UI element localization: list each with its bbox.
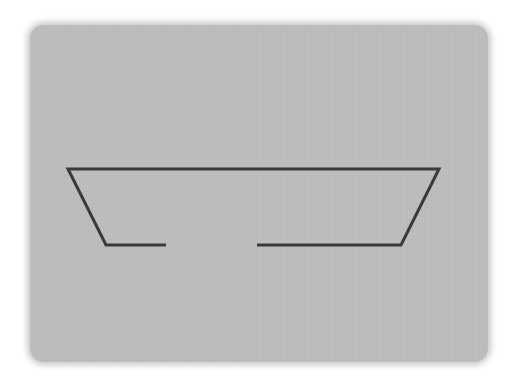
- diagram-canvas: [0, 0, 523, 388]
- open-trapezoid-shape: [0, 0, 523, 388]
- trapezoid-outline: [68, 169, 439, 245]
